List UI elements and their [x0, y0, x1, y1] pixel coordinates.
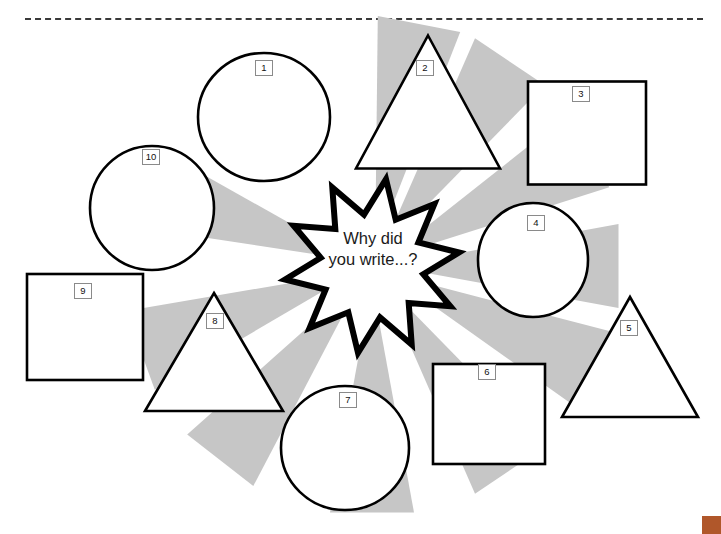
shape-number-label-8: 8 [206, 313, 224, 329]
worksheet-page: Why did you write...? 12345678910 [0, 0, 721, 534]
shape-number-label-4: 4 [527, 215, 545, 231]
shape-number-label-9: 9 [74, 283, 92, 299]
shape-number-label-10: 10 [142, 149, 160, 165]
shape-number-label-6: 6 [478, 364, 496, 380]
shape-number-label-5: 5 [620, 320, 638, 336]
shape-number-label-2: 2 [416, 60, 434, 76]
shape-number-label-1: 1 [255, 60, 273, 76]
corner-color-mark [702, 516, 721, 534]
shape-number-label-3: 3 [572, 86, 590, 102]
center-prompt-text: Why did you write...? [300, 228, 446, 270]
shape-number-label-7: 7 [339, 392, 357, 408]
